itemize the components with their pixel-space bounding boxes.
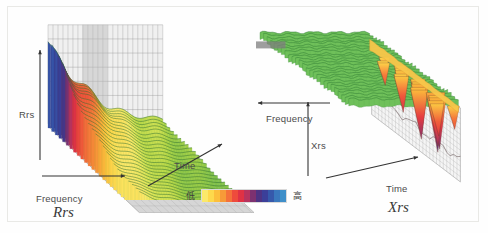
rrs-depth-axis-label: Frequency [36, 193, 83, 204]
colorbar-high-label: 高 [293, 192, 302, 201]
rrs-vertical-axis-label: Rrs [19, 109, 34, 120]
xrs-vertical-axis-label: Xrs [311, 140, 326, 151]
xrs-horizontal-axis-label: Time [386, 183, 408, 194]
figure-container: Rrs Frequency Time Rrs Frequency Xrs Tim… [0, 0, 488, 233]
colorbar-swatch [280, 190, 286, 202]
rrs-panel-title: Rrs [53, 204, 74, 221]
colorbar-gradient [201, 189, 287, 203]
colorbar-legend: 低 高 [176, 185, 312, 207]
rrs-horizontal-axis-label: Time [174, 160, 196, 171]
xrs-panel-title: Xrs [388, 199, 409, 216]
xrs-depth-axis-label: Frequency [266, 113, 313, 124]
colorbar-low-label: 低 [186, 192, 195, 201]
